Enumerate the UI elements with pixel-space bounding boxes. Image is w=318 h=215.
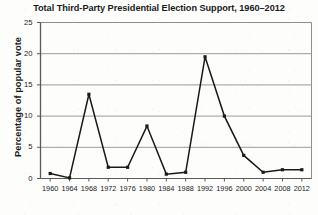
chart-container: Total Third-Party Presidential Election … xyxy=(0,0,318,215)
data-markers xyxy=(49,55,304,179)
axes xyxy=(41,23,312,179)
data-point-1976 xyxy=(126,166,129,169)
data-point-1968 xyxy=(87,93,90,96)
data-point-1972 xyxy=(107,166,110,169)
data-point-2008 xyxy=(281,168,284,171)
series-line-total-third-party-support xyxy=(50,57,302,178)
gridlines xyxy=(41,23,312,179)
data-line xyxy=(50,57,302,178)
data-point-2004 xyxy=(262,171,265,174)
data-point-1996 xyxy=(223,115,226,118)
data-point-1984 xyxy=(165,173,168,176)
data-point-1988 xyxy=(184,171,187,174)
data-point-1960 xyxy=(49,172,52,175)
data-point-1992 xyxy=(203,55,206,58)
data-point-1964 xyxy=(68,176,71,179)
data-point-2000 xyxy=(242,154,245,157)
data-point-1980 xyxy=(145,124,148,127)
data-point-2012 xyxy=(300,168,303,171)
plot-area xyxy=(0,0,318,215)
